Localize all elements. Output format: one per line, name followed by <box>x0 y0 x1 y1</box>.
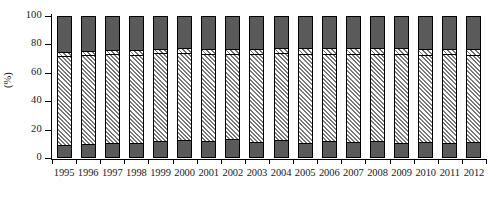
y-tick-20 <box>45 130 51 131</box>
bar-segment-2008-segment-upper-hatch <box>370 48 385 54</box>
bar-segment-2000-segment-top-dark <box>177 16 192 48</box>
bar-segment-1996-segment-upper-hatch <box>81 51 96 55</box>
x-tick-16 <box>438 160 439 164</box>
y-tick-40 <box>45 101 51 102</box>
bar-segment-1999-segment-middle-hatch <box>153 53 168 141</box>
bar-segment-2009-segment-top-dark <box>394 16 409 48</box>
bar-segment-2009-segment-middle-hatch <box>394 54 409 143</box>
bar-segment-1996-segment-bottom-dark <box>81 144 96 158</box>
bar-segment-1997-segment-bottom-dark <box>105 143 120 158</box>
x-tick-label-2009: 2009 <box>390 167 414 178</box>
bar-segment-2011-segment-upper-hatch <box>442 49 457 55</box>
bar-segment-2003-segment-middle-hatch <box>249 54 264 142</box>
bar-2006[interactable] <box>322 16 337 158</box>
bar-segment-2004-segment-top-dark <box>274 16 289 48</box>
bar-segment-2010-segment-middle-hatch <box>418 55 433 142</box>
bar-segment-2007-segment-upper-hatch <box>346 48 361 54</box>
x-tick-label-2011: 2011 <box>438 167 462 178</box>
x-tick-label-2005: 2005 <box>293 167 317 178</box>
bar-2005[interactable] <box>298 16 313 158</box>
x-tick-10 <box>293 160 294 164</box>
x-tick-label-2008: 2008 <box>365 167 389 178</box>
x-tick-1 <box>76 160 77 164</box>
bar-segment-2009-segment-upper-hatch <box>394 48 409 54</box>
bar-segment-2006-segment-upper-hatch <box>322 48 337 54</box>
bar-1995[interactable] <box>57 16 72 158</box>
bar-segment-1998-segment-middle-hatch <box>129 55 144 143</box>
bar-segment-2012-segment-middle-hatch <box>466 55 481 142</box>
x-tick-label-2003: 2003 <box>245 167 269 178</box>
bar-segment-1995-segment-top-dark <box>57 16 72 52</box>
x-tick-13 <box>365 160 366 164</box>
bar-2004[interactable] <box>274 16 289 158</box>
bar-2000[interactable] <box>177 16 192 158</box>
bar-segment-2003-segment-upper-hatch <box>249 49 264 54</box>
bar-segment-1995-segment-middle-hatch <box>57 56 72 145</box>
bar-segment-2002-segment-top-dark <box>225 16 240 49</box>
x-tick-15 <box>414 160 415 164</box>
bar-2009[interactable] <box>394 16 409 158</box>
bar-segment-2008-segment-middle-hatch <box>370 54 385 141</box>
bar-segment-2008-segment-bottom-dark <box>370 141 385 158</box>
bar-1996[interactable] <box>81 16 96 158</box>
bar-2003[interactable] <box>249 16 264 158</box>
bar-segment-2003-segment-top-dark <box>249 16 264 49</box>
bar-segment-2007-segment-middle-hatch <box>346 54 361 142</box>
bar-2008[interactable] <box>370 16 385 158</box>
bar-segment-2000-segment-middle-hatch <box>177 53 192 140</box>
bar-segment-1996-segment-middle-hatch <box>81 55 96 144</box>
y-tick-label-100: 100 <box>6 10 42 20</box>
bar-segment-1999-segment-upper-hatch <box>153 49 168 53</box>
x-tick-18 <box>486 160 487 164</box>
bar-segment-2007-segment-top-dark <box>346 16 361 48</box>
bar-segment-2002-segment-middle-hatch <box>225 54 240 139</box>
bar-2001[interactable] <box>201 16 216 158</box>
x-tick-label-2002: 2002 <box>221 167 245 178</box>
x-tick-label-2012: 2012 <box>462 167 486 178</box>
bar-2010[interactable] <box>418 16 433 158</box>
bar-segment-2011-segment-middle-hatch <box>442 54 457 143</box>
bar-segment-2010-segment-bottom-dark <box>418 142 433 158</box>
x-tick-6 <box>197 160 198 164</box>
stacked-bar-chart: (%) 020406080100 19951996199719981999200… <box>0 0 499 205</box>
bar-segment-1997-segment-middle-hatch <box>105 54 120 143</box>
bar-segment-2010-segment-top-dark <box>418 16 433 49</box>
bar-segment-1998-segment-bottom-dark <box>129 143 144 158</box>
bar-segment-2006-segment-bottom-dark <box>322 141 337 158</box>
bar-segment-2012-segment-upper-hatch <box>466 49 481 55</box>
x-tick-4 <box>148 160 149 164</box>
bar-segment-1995-segment-bottom-dark <box>57 145 72 158</box>
bar-segment-1999-segment-top-dark <box>153 16 168 49</box>
bar-segment-2004-segment-bottom-dark <box>274 140 289 158</box>
x-tick-9 <box>269 160 270 164</box>
bar-1998[interactable] <box>129 16 144 158</box>
x-tick-12 <box>341 160 342 164</box>
bar-segment-2009-segment-bottom-dark <box>394 143 409 158</box>
bar-segment-2000-segment-bottom-dark <box>177 140 192 158</box>
x-tick-14 <box>390 160 391 164</box>
bar-segment-2008-segment-top-dark <box>370 16 385 48</box>
y-tick-100 <box>45 16 51 17</box>
y-tick-60 <box>45 73 51 74</box>
x-tick-label-1997: 1997 <box>100 167 124 178</box>
x-tick-7 <box>221 160 222 164</box>
bar-segment-2010-segment-upper-hatch <box>418 49 433 55</box>
bar-2012[interactable] <box>466 16 481 158</box>
y-tick-label-80: 80 <box>6 38 42 48</box>
x-tick-label-2000: 2000 <box>173 167 197 178</box>
bar-2007[interactable] <box>346 16 361 158</box>
bar-segment-2012-segment-top-dark <box>466 16 481 49</box>
bar-segment-1997-segment-upper-hatch <box>105 50 120 54</box>
bar-1999[interactable] <box>153 16 168 158</box>
x-tick-label-2001: 2001 <box>197 167 221 178</box>
bar-segment-2006-segment-top-dark <box>322 16 337 48</box>
bar-1997[interactable] <box>105 16 120 158</box>
y-tick-label-60: 60 <box>6 67 42 77</box>
bar-segment-2001-segment-upper-hatch <box>201 49 216 54</box>
bar-segment-1995-segment-upper-hatch <box>57 52 72 55</box>
bar-2011[interactable] <box>442 16 457 158</box>
bar-2002[interactable] <box>225 16 240 158</box>
x-tick-11 <box>317 160 318 164</box>
x-tick-label-2006: 2006 <box>317 167 341 178</box>
bar-segment-2006-segment-middle-hatch <box>322 54 337 141</box>
